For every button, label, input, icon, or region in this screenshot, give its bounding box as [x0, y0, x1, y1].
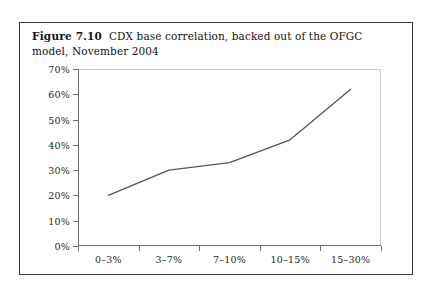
- y-axis-label: 0%: [55, 241, 70, 252]
- x-axis-label: 7–10%: [213, 254, 246, 265]
- y-axis-label: 30%: [48, 165, 70, 176]
- x-axis-tick: [320, 246, 321, 251]
- x-axis-label: 10–15%: [271, 254, 310, 265]
- x-axis-tick: [381, 246, 382, 251]
- y-axis-label: 40%: [48, 139, 70, 150]
- x-axis-label: 0–3%: [95, 254, 122, 265]
- y-axis-label: 60%: [48, 89, 70, 100]
- figure-caption: Figure 7.10 CDX base correlation, backed…: [32, 29, 392, 58]
- y-axis-label: 20%: [48, 190, 70, 201]
- x-axis-tick: [199, 246, 200, 251]
- y-axis-label: 70%: [48, 64, 70, 75]
- x-axis-tick: [139, 246, 140, 251]
- y-axis-label: 10%: [48, 215, 70, 226]
- figure-container: Figure 7.10 CDX base correlation, backed…: [19, 22, 413, 275]
- x-axis-tick: [78, 246, 79, 251]
- x-axis-label: 15–30%: [331, 254, 370, 265]
- figure-label: Figure 7.10: [32, 30, 102, 42]
- chart-series-line: [78, 69, 381, 246]
- y-axis-label: 50%: [48, 114, 70, 125]
- x-axis-label: 3–7%: [156, 254, 183, 265]
- x-axis-tick: [260, 246, 261, 251]
- chart-plot-area: 0%10%20%30%40%50%60%70% 0–3%3–7%7–10%10–…: [78, 69, 381, 246]
